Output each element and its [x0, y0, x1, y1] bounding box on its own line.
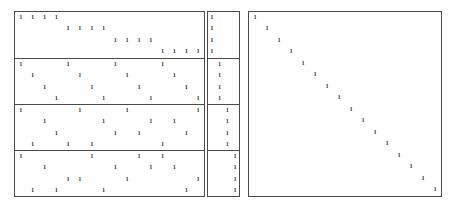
matrix-entry: 1: [218, 62, 221, 67]
matrix-entry: 1: [278, 38, 281, 43]
matrix-entry: 1: [362, 119, 365, 124]
matrix-entry: 1: [185, 50, 188, 55]
matrix-entry: 1: [90, 154, 93, 159]
matrix-entry: 1: [410, 165, 413, 170]
middle-matrix-panel: 1111111111111111: [207, 11, 240, 197]
matrix-entry: 1: [226, 143, 229, 148]
matrix-entry: 1: [90, 27, 93, 32]
matrix-entry: 1: [161, 154, 164, 159]
matrix-entry: 1: [79, 108, 82, 113]
matrix-entry: 1: [173, 74, 176, 79]
matrix-entry: 1: [314, 73, 317, 78]
matrix-entry: 1: [67, 27, 70, 32]
matrix-entry: 1: [55, 15, 58, 20]
matrix-entry: 1: [211, 27, 214, 32]
identity-group: 1111111111111111: [249, 12, 441, 196]
left-matrix-panel: 1111111111111111111111111111111111111111…: [14, 11, 205, 197]
staircase-group-1: 1111: [208, 12, 239, 58]
right-matrix-panel: 1111111111111111: [248, 11, 442, 197]
scattered-group-a: 1111111111111111: [15, 104, 204, 150]
matrix-entry: 1: [114, 62, 117, 67]
matrix-entry: 1: [185, 85, 188, 90]
matrix-entry: 1: [126, 108, 129, 113]
matrix-entry: 1: [79, 27, 82, 32]
matrix-entry: 1: [138, 85, 141, 90]
matrix-entry: 1: [20, 15, 23, 20]
matrix-entry: 1: [374, 130, 377, 135]
block-diagonal-group: 1111111111111111: [15, 12, 204, 58]
matrix-entry: 1: [31, 15, 34, 20]
matrix-entry: 1: [211, 15, 214, 20]
matrix-entry: 1: [218, 74, 221, 79]
matrix-entry: 1: [434, 188, 437, 193]
matrix-entry: 1: [102, 27, 105, 32]
matrix-entry: 1: [185, 189, 188, 194]
matrix-entry: 1: [149, 38, 152, 43]
matrix-entry: 1: [102, 97, 105, 102]
matrix-entry: 1: [149, 120, 152, 125]
matrix-entry: 1: [185, 131, 188, 136]
matrix-entry: 1: [20, 108, 23, 113]
matrix-entry: 1: [67, 143, 70, 148]
matrix-entry: 1: [234, 189, 237, 194]
matrix-entry: 1: [102, 120, 105, 125]
matrix-entry: 1: [114, 166, 117, 171]
matrix-entry: 1: [90, 143, 93, 148]
matrix-entry: 1: [114, 131, 117, 136]
matrix-entry: 1: [226, 108, 229, 113]
matrix-entry: 1: [422, 176, 425, 181]
matrix-entry: 1: [197, 97, 200, 102]
matrix-entry: 1: [43, 15, 46, 20]
matrix-entry: 1: [138, 38, 141, 43]
matrix-entry: 1: [55, 131, 58, 136]
matrix-entry: 1: [20, 154, 23, 159]
matrix-entry: 1: [302, 61, 305, 66]
matrix-entry: 1: [79, 74, 82, 79]
matrix-entry: 1: [338, 96, 341, 101]
matrix-entry: 1: [161, 143, 164, 148]
matrix-entry: 1: [43, 85, 46, 90]
matrix-entry: 1: [102, 189, 105, 194]
matrix-entry: 1: [197, 177, 200, 182]
matrix-entry: 1: [234, 177, 237, 182]
matrix-entry: 1: [197, 50, 200, 55]
matrix-entry: 1: [161, 62, 164, 67]
matrix-entry: 1: [149, 166, 152, 171]
matrix-entry: 1: [218, 97, 221, 102]
matrix-figure: 1111111111111111111111111111111111111111…: [0, 0, 455, 206]
matrix-entry: 1: [211, 38, 214, 43]
staircase-group-3: 1111: [208, 104, 239, 150]
matrix-entry: 1: [266, 27, 269, 32]
matrix-entry: 1: [290, 50, 293, 55]
matrix-entry: 1: [161, 50, 164, 55]
matrix-entry: 1: [79, 177, 82, 182]
matrix-entry: 1: [173, 120, 176, 125]
matrix-entry: 1: [138, 131, 141, 136]
matrix-entry: 1: [226, 131, 229, 136]
strided-group: 1111111111111111: [15, 58, 204, 104]
matrix-entry: 1: [398, 153, 401, 158]
matrix-entry: 1: [138, 154, 141, 159]
matrix-entry: 1: [67, 62, 70, 67]
matrix-entry: 1: [173, 50, 176, 55]
matrix-entry: 1: [254, 15, 257, 20]
matrix-entry: 1: [43, 166, 46, 171]
scattered-group-b: 1111111111111111: [15, 150, 204, 196]
matrix-entry: 1: [55, 97, 58, 102]
matrix-entry: 1: [197, 108, 200, 113]
matrix-entry: 1: [234, 154, 237, 159]
matrix-entry: 1: [126, 38, 129, 43]
matrix-entry: 1: [20, 62, 23, 67]
matrix-entry: 1: [234, 166, 237, 171]
matrix-entry: 1: [226, 120, 229, 125]
matrix-entry: 1: [126, 74, 129, 79]
matrix-entry: 1: [149, 97, 152, 102]
matrix-entry: 1: [31, 143, 34, 148]
staircase-group-4: 1111: [208, 150, 239, 196]
matrix-entry: 1: [67, 177, 70, 182]
matrix-entry: 1: [218, 85, 221, 90]
matrix-entry: 1: [386, 142, 389, 147]
matrix-entry: 1: [211, 50, 214, 55]
matrix-entry: 1: [114, 38, 117, 43]
matrix-entry: 1: [43, 120, 46, 125]
